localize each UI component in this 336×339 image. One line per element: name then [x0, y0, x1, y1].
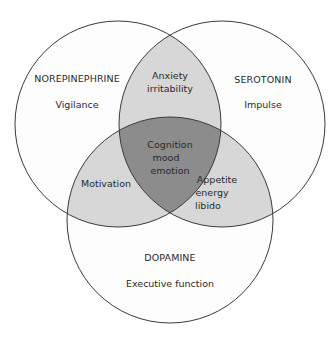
- label-norepinephrine: NOREPINEPHRINE: [34, 73, 120, 84]
- overlap-se-da-line-2: energy: [195, 187, 228, 198]
- overlap-all-line-1: Cognition: [147, 139, 192, 150]
- overlap-all-line-2: mood: [153, 152, 180, 163]
- sublabel-serotonin: Impulse: [244, 99, 282, 110]
- overlap-ne-da-line-1: Motivation: [81, 178, 131, 189]
- overlap-se-da-line-1: Appetite: [197, 174, 237, 185]
- overlap-ne-se-line-1: Anxiety: [152, 70, 188, 81]
- label-serotonin: SEROTONIN: [234, 74, 291, 85]
- venn-diagram: NOREPINEPHRINE Vigilance SEROTONIN Impul…: [0, 0, 336, 339]
- overlap-ne-se-line-2: irritability: [147, 83, 193, 94]
- overlap-se-da-line-3: libido: [195, 200, 221, 211]
- label-dopamine: DOPAMINE: [144, 252, 195, 263]
- sublabel-dopamine: Executive function: [126, 278, 214, 289]
- overlap-all-line-3: emotion: [150, 165, 189, 176]
- sublabel-norepinephrine: Vigilance: [55, 99, 98, 110]
